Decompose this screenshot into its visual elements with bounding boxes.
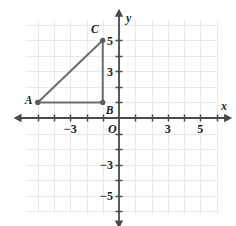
y-axis-tick-label: −3	[100, 158, 113, 172]
vertex-label-c: C	[91, 23, 99, 35]
coordinate-plane-svg: −33553−3−5 ABC x y O	[0, 0, 236, 226]
origin-label: O	[108, 122, 117, 136]
coordinate-plane-figure: −33553−3−5 ABC x y O	[0, 0, 236, 226]
y-axis-tick-label: −5	[100, 189, 113, 203]
vertex-point-a	[35, 100, 40, 105]
y-axis-tick-label: 3	[107, 65, 113, 79]
vertex-label-b: B	[105, 104, 114, 116]
vertex-point-b	[100, 100, 105, 105]
x-axis-tick-label: 5	[197, 122, 203, 136]
x-axis-label: x	[220, 99, 227, 113]
x-axis-tick-label: −3	[64, 122, 77, 136]
x-axis-tick-label: 3	[165, 122, 171, 136]
y-axis-label: y	[124, 11, 132, 25]
y-axis-tick-label: 5	[107, 34, 113, 48]
vertex-point-c	[100, 38, 105, 43]
vertex-label-a: A	[24, 94, 33, 106]
